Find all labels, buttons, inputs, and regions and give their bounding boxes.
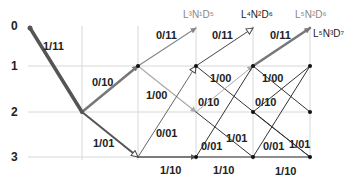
edge-label: 1/11 [43,40,64,52]
transition-edge [82,66,138,112]
state-node [308,64,312,68]
state-node [194,155,198,159]
edge-label: 0/10 [255,96,276,108]
transition-edge [82,112,138,157]
state-label: L⁵N²D⁶ [295,9,327,20]
edge-label: 1/00 [262,72,283,84]
edge-label: 1/00 [146,89,167,101]
state-node [308,110,312,114]
state-node [28,26,33,31]
edge-label: 0/11 [212,29,233,41]
edge-label: 0/10 [198,96,219,108]
row-label: 2 [11,105,18,119]
edge-label: 0/01 [156,127,177,139]
state-node [194,64,198,68]
edge-label: 1/01 [289,138,310,150]
edge-label: 1/10 [160,164,181,176]
edge-label: 1/00 [210,72,231,84]
state-labels: L³N¹D⁵L⁴N²D⁶L⁵N²D⁶L⁵N³D⁷ [183,9,344,39]
row-label: 3 [11,150,18,164]
edge-label: 1/01 [93,137,114,149]
edge-label: 0/11 [270,29,291,41]
edge-label: 1/10 [275,165,296,177]
edge-label: 0/01 [201,140,222,152]
row-label: 1 [11,59,18,73]
row-labels: 0123 [11,19,18,164]
trellis-diagram: 0123 1/110/101/010/111/000/011/100/111/0… [0,0,362,186]
edge-labels: 1/110/101/010/111/000/011/100/111/000/10… [43,29,310,177]
row-label: 0 [11,19,18,33]
state-label: L⁴N²D⁶ [241,9,273,20]
state-label: L⁵N³D⁷ [313,28,344,39]
state-node [80,110,84,114]
state-node [251,155,255,159]
state-node [251,110,255,114]
edge-label: 0/10 [92,76,113,88]
edge-label: 1/10 [213,164,234,176]
state-node [251,64,255,68]
state-label: L³N¹D⁵ [183,9,214,20]
edge-label: 0/11 [156,29,177,41]
state-node [308,155,312,159]
state-node [136,64,140,68]
edge-label: 1/01 [226,132,247,144]
edge-label: 0/01 [263,140,284,152]
